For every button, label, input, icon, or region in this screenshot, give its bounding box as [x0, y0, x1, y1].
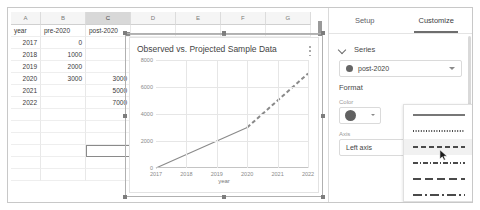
series-section-header[interactable]: Series	[329, 38, 472, 60]
x-axis-title: year	[130, 178, 318, 184]
line-style-option-dotted[interactable]	[404, 123, 473, 139]
gridline-vertical	[217, 60, 218, 168]
x-axis-tick-label: 2017	[150, 171, 162, 177]
chart-card: Observed vs. Projected Sample Data 02000…	[129, 37, 319, 193]
line-style-option-long-dash[interactable]	[404, 171, 473, 187]
cell[interactable]: 2017	[11, 37, 41, 49]
cell[interactable]	[11, 169, 41, 181]
dotted-line-icon	[412, 128, 466, 134]
x-axis-tick-label: 2021	[271, 171, 283, 177]
kebab-dot	[309, 46, 311, 48]
cell[interactable]	[41, 157, 86, 169]
column-header-d[interactable]: D	[131, 12, 176, 25]
axis-select-value: Left axis	[346, 144, 372, 151]
format-section-title: Format	[329, 83, 472, 92]
cell[interactable]	[41, 97, 86, 109]
solid-line-icon	[412, 112, 466, 118]
resize-handle-w[interactable]	[123, 114, 127, 118]
line-style-dropdown-menu[interactable]	[403, 104, 473, 202]
x-axis-tick-label: 2019	[211, 171, 223, 177]
cell[interactable]: 2019	[11, 61, 41, 73]
kebab-dot	[309, 55, 311, 57]
column-header-b[interactable]: B	[41, 12, 86, 25]
sidebar-tabs: Setup Customize	[329, 8, 472, 34]
chart-plot-area: 0200040006000800020172018201920202021202…	[156, 60, 308, 168]
column-header-e[interactable]: E	[176, 12, 221, 25]
gridline-horizontal	[156, 141, 308, 142]
kebab-dot	[309, 50, 311, 52]
cell[interactable]: 0	[41, 37, 86, 49]
sidebar-vertical-scrollbar[interactable]	[468, 36, 471, 106]
kebab-menu-icon[interactable]	[306, 44, 314, 58]
cell[interactable]: 2000	[41, 61, 86, 73]
chevron-down-icon	[449, 67, 455, 70]
resize-handle-n[interactable]	[222, 31, 226, 35]
gridline-horizontal	[156, 60, 308, 61]
cell[interactable]	[11, 133, 41, 145]
y-axis-tick-label: 8000	[141, 57, 153, 63]
cell[interactable]	[41, 133, 86, 145]
series-select[interactable]: post-2020	[339, 60, 462, 77]
column-header-f[interactable]: F	[221, 12, 266, 25]
line-style-option-solid[interactable]	[404, 107, 473, 123]
line-style-option-long-dash-dot[interactable]	[404, 187, 473, 203]
cell[interactable]	[41, 85, 86, 97]
y-axis-tick-label: 6000	[141, 84, 153, 90]
x-axis-line	[156, 167, 308, 168]
series-section-title: Series	[354, 45, 375, 54]
cell[interactable]	[41, 145, 86, 157]
column-header-c[interactable]: C	[86, 12, 131, 25]
long-dash-dot-line-icon	[412, 192, 466, 198]
screenshot-root: ABCDEFG yearpre-2020post-202020170201810…	[0, 0, 480, 210]
series-select-value: post-2020	[358, 65, 389, 72]
cell[interactable]	[41, 109, 86, 121]
x-axis-tick-label: 2018	[180, 171, 192, 177]
cell[interactable]: 2021	[11, 85, 41, 97]
cell[interactable]	[41, 169, 86, 181]
chart-series-pre-2020	[156, 128, 247, 169]
resize-handle-nw[interactable]	[123, 31, 127, 35]
resize-handle-sw[interactable]	[123, 195, 127, 199]
resize-handle-se[interactable]	[321, 195, 325, 199]
gridline-horizontal	[156, 114, 308, 115]
chart-object[interactable]: Observed vs. Projected Sample Data 02000…	[125, 33, 323, 197]
long-dash-line-icon	[412, 176, 466, 182]
chart-title: Observed vs. Projected Sample Data	[137, 44, 277, 54]
cell[interactable]: 2018	[11, 49, 41, 61]
gridline-vertical	[308, 60, 309, 168]
tab-customize[interactable]: Customize	[401, 8, 473, 33]
cell[interactable]	[11, 157, 41, 169]
gridline-vertical	[186, 60, 187, 168]
chevron-down-icon	[339, 46, 346, 53]
chevron-down-icon	[371, 114, 375, 116]
gridline-vertical	[278, 60, 279, 168]
tab-setup[interactable]: Setup	[329, 8, 401, 33]
cell[interactable]: 3000	[41, 73, 86, 85]
mouse-cursor-icon	[439, 149, 448, 162]
column-header-row: ABCDEFG	[11, 12, 311, 25]
app-window: ABCDEFG yearpre-2020post-202020170201810…	[7, 7, 473, 203]
cell[interactable]	[11, 109, 41, 121]
cell[interactable]	[11, 145, 41, 157]
cell[interactable]: year	[11, 25, 41, 37]
cell[interactable]: 2020	[11, 73, 41, 85]
column-header-g[interactable]: G	[266, 12, 311, 25]
resize-handle-ne[interactable]	[321, 31, 325, 35]
color-picker-button[interactable]	[339, 107, 381, 124]
cell[interactable]	[11, 121, 41, 133]
x-axis-tick-label: 2022	[302, 171, 314, 177]
x-axis-tick-label: 2020	[241, 171, 253, 177]
y-axis-tick-label: 4000	[141, 111, 153, 117]
gridline-vertical	[247, 60, 248, 168]
column-header-a[interactable]: A	[11, 12, 41, 25]
cell[interactable]: 1000	[41, 49, 86, 61]
color-swatch-icon	[345, 110, 356, 121]
resize-handle-s[interactable]	[222, 195, 226, 199]
y-axis-tick-label: 2000	[141, 138, 153, 144]
cell[interactable]: pre-2020	[41, 25, 86, 37]
cell[interactable]	[41, 121, 86, 133]
series-color-dot-icon	[346, 65, 353, 72]
cell[interactable]: 2022	[11, 97, 41, 109]
gridline-horizontal	[156, 87, 308, 88]
resize-handle-e[interactable]	[321, 114, 325, 118]
